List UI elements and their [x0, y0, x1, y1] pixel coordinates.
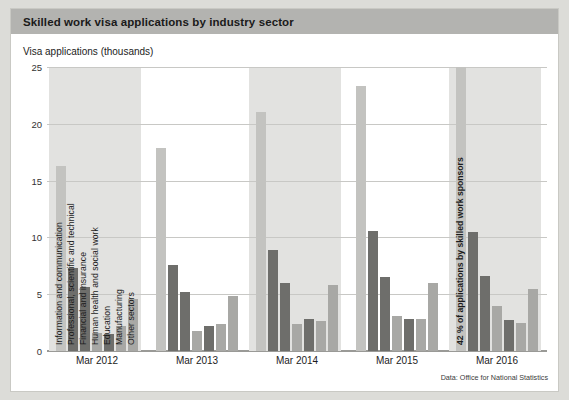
source-note: Data: Office for National Statistics	[441, 373, 548, 382]
series-label-4: Education	[102, 306, 112, 345]
plot-area: 0510152025 Information and communication…	[23, 67, 547, 367]
series-label-2: Financial and insurance	[78, 252, 88, 345]
y-axis-tick: 20	[31, 118, 42, 129]
bar-5	[316, 321, 326, 351]
page-title: Skilled work visa applications by indust…	[23, 16, 294, 28]
bar-1	[268, 250, 278, 351]
bar-6	[428, 283, 438, 351]
series-label-5: Manufacturing	[114, 289, 124, 345]
page-background: Skilled work visa applications by indust…	[0, 0, 569, 400]
series-label-3: Human health and social work	[90, 227, 100, 345]
x-axis-label-1: Mar 2013	[176, 355, 218, 366]
bar-5	[416, 319, 426, 351]
title-bar: Skilled work visa applications by indust…	[11, 9, 558, 34]
series-label-1: Professional, scientific and technical	[66, 203, 76, 345]
bar-6	[528, 289, 538, 351]
bar-5	[216, 324, 226, 351]
bar-4	[404, 319, 414, 351]
bar-4	[304, 319, 314, 351]
chart-card: Skilled work visa applications by indust…	[11, 9, 558, 391]
y-axis-tick: 25	[31, 62, 42, 73]
y-axis-tick: 5	[37, 289, 42, 300]
gridline	[47, 351, 547, 352]
bar-6	[328, 285, 338, 351]
bar-2	[380, 277, 390, 351]
bar-6	[228, 296, 238, 351]
bar-5	[516, 323, 526, 351]
bar-3	[492, 306, 502, 351]
gridline	[47, 124, 547, 125]
bar-1	[468, 232, 478, 351]
gridline	[47, 181, 547, 182]
bar-3	[192, 331, 202, 351]
x-axis-label-0: Mar 2012	[76, 355, 118, 366]
bar-0	[256, 112, 266, 351]
bar-4	[504, 320, 514, 351]
bar-1	[168, 265, 178, 351]
chart-annotation: 42 % of applications by skilled work spo…	[455, 157, 465, 345]
bar-0	[156, 148, 166, 351]
bar-4	[204, 326, 214, 351]
y-axis-label: Visa applications (thousands)	[23, 46, 153, 57]
bar-3	[392, 316, 402, 351]
x-axis-label-2: Mar 2014	[276, 355, 318, 366]
y-axis-tick: 15	[31, 175, 42, 186]
gridline	[47, 67, 547, 68]
plot-canvas: Information and communicationProfessiona…	[47, 67, 547, 351]
x-axis-label-4: Mar 2016	[476, 355, 518, 366]
bar-3	[292, 324, 302, 351]
bar-2	[180, 292, 190, 351]
bar-2	[480, 276, 490, 351]
y-axis-tick: 0	[37, 346, 42, 357]
x-axis-label-3: Mar 2015	[376, 355, 418, 366]
x-axis-labels: Mar 2012Mar 2013Mar 2014Mar 2015Mar 2016	[47, 355, 547, 375]
series-label-0: Information and communication	[54, 222, 64, 345]
series-label-6: Other sectors	[126, 292, 136, 345]
y-axis-tick: 10	[31, 232, 42, 243]
bar-2	[280, 283, 290, 351]
bar-1	[368, 231, 378, 351]
y-axis: 0510152025	[23, 67, 45, 351]
bar-0	[356, 86, 366, 351]
